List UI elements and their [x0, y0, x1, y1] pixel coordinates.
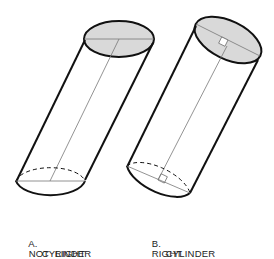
- cylinder-b-right-edge: [190, 60, 258, 193]
- cylinder-a-left-edge: [16, 40, 85, 182]
- cylinder-a-axis: [50, 39, 119, 181]
- cylinder-b-caption-second-line: CYLINDER: [160, 239, 215, 259]
- cylinder-b-bottom-front-arc: [127, 166, 190, 197]
- cylinder-a-bottom-hidden-arc: [16, 168, 85, 181]
- cylinder-b-axis: [158, 46, 227, 180]
- cylinder-a-caption-line2: CYLINDER: [42, 248, 92, 259]
- cylinder-b-caption-line2: CYLINDER: [166, 248, 216, 259]
- cylinder-b-bottom-hidden-arc: [127, 162, 190, 193]
- cylinder-a-right-edge: [85, 43, 153, 180]
- cylinder-a-caption-second-line: CYLINDER: [36, 239, 91, 259]
- cylinder-a-bottom-front-arc: [16, 181, 85, 195]
